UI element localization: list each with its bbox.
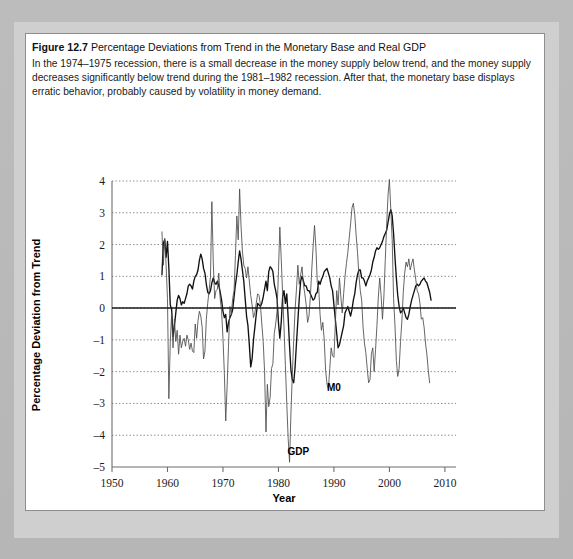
series-line-m0 [162,179,430,462]
x-tick-label: 1980 [267,477,290,489]
chart-area: –5–4–3–2–101234 195019601970198019902000… [26,130,544,510]
y-tick-label: –3 [93,397,106,409]
y-axis-title: Percentage Deviation from Trend [30,239,42,411]
series-annotations: M0GDP [288,382,342,457]
figure-box: Figure 12.7 Percentage Deviations from T… [25,33,545,511]
y-tick-label: –5 [93,461,106,473]
line-chart: –5–4–3–2–101234 195019601970198019902000… [26,130,544,510]
x-axis-tick-labels: 1950196019701980199020002010 [101,477,457,489]
y-tick-label: –4 [93,429,106,441]
annotation-gdp: GDP [288,446,310,457]
page-root: Figure 12.7 Percentage Deviations from T… [0,0,573,559]
x-tick-label: 2010 [433,477,456,489]
x-tick-label: 1990 [322,477,345,489]
x-tick-label: 1960 [156,477,179,489]
x-tick-label: 2000 [378,477,401,489]
caption-title-line: Figure 12.7 Percentage Deviations from T… [32,40,532,55]
y-tick-label: –2 [93,366,106,378]
x-axis-title: Year [272,492,296,504]
y-tick-label: 2 [99,239,105,251]
y-tick-label: 3 [99,207,105,219]
figure-caption: Figure 12.7 Percentage Deviations from T… [32,40,532,100]
figure-title: Percentage Deviations from Trend in the … [91,41,426,53]
x-tick-label: 1970 [211,477,234,489]
y-tick-label: –1 [93,334,106,346]
figure-number: Figure 12.7 [32,41,88,53]
y-tick-label: 1 [99,270,105,282]
y-axis-tick-labels: –5–4–3–2–101234 [93,175,106,473]
annotation-m0: M0 [327,382,341,393]
y-tick-label: 0 [99,302,105,314]
series-line-gdp [162,210,431,383]
axis-ticks [112,467,445,472]
y-tick-label: 4 [99,175,105,187]
data-series [162,179,431,462]
x-tick-label: 1950 [101,477,124,489]
caption-body: In the 1974–1975 recession, there is a s… [32,57,532,100]
